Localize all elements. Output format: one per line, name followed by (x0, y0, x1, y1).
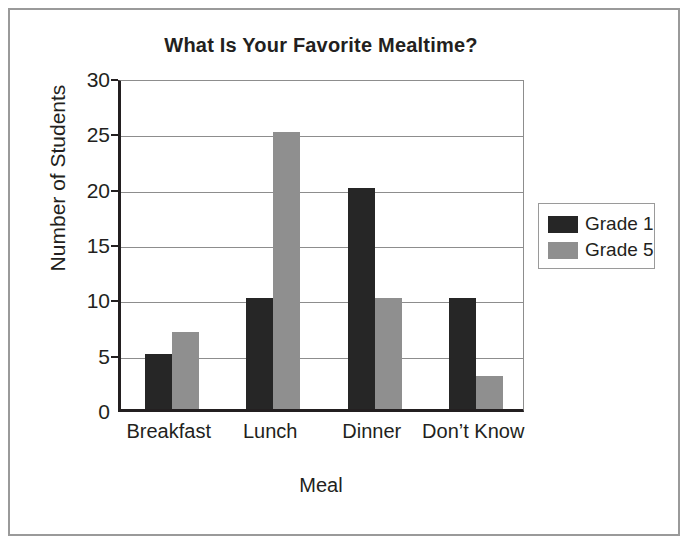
y-tick-label: 15 (64, 234, 110, 258)
bar (273, 132, 300, 409)
legend-item[interactable]: Grade 1 (548, 212, 654, 236)
y-tick-mark (111, 190, 118, 192)
legend-swatch-icon (548, 216, 578, 233)
legend-swatch-icon (548, 242, 578, 259)
bar (449, 298, 476, 409)
bar (348, 188, 375, 409)
bar (246, 298, 273, 409)
y-tick-mark (111, 134, 118, 136)
x-tick-label: Don’t Know (403, 420, 545, 443)
bar (476, 376, 503, 409)
y-tick-mark (111, 79, 118, 81)
plot-area (118, 80, 524, 412)
y-tick-mark (111, 356, 118, 358)
legend-label: Grade 1 (585, 213, 654, 235)
legend-label: Grade 5 (585, 239, 654, 261)
bars-layer (121, 81, 523, 409)
bar (375, 298, 402, 409)
legend: Grade 1 Grade 5 (538, 203, 655, 269)
y-tick-label: 20 (64, 179, 110, 203)
y-tick-mark (111, 300, 118, 302)
y-tick-mark (111, 245, 118, 247)
legend-item[interactable]: Grade 5 (548, 238, 654, 262)
chart-page: What Is Your Favorite Mealtime? Number o… (0, 0, 690, 546)
chart-title: What Is Your Favorite Mealtime? (118, 34, 524, 57)
bar (172, 332, 199, 409)
y-tick-label: 10 (64, 289, 110, 313)
y-tick-label: 30 (64, 68, 110, 92)
y-tick-label: 25 (64, 123, 110, 147)
y-tick-label: 5 (64, 345, 110, 369)
x-axis-title: Meal (118, 474, 524, 497)
bar (145, 354, 172, 409)
